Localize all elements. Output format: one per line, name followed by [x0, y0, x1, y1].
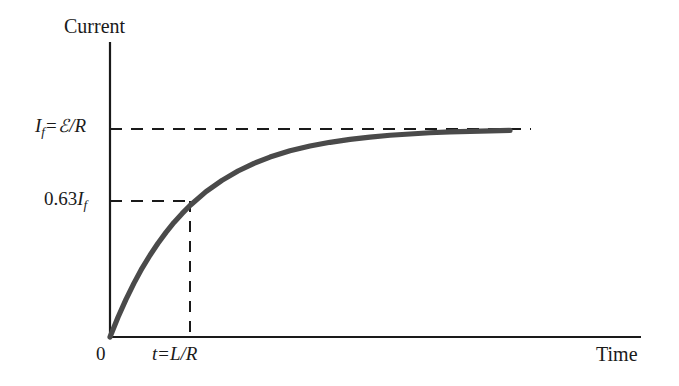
final-current-equals: = [45, 115, 58, 136]
tau-current-coefficient: 0.63 [44, 188, 77, 209]
tau-tick-inductance: L [170, 343, 181, 364]
origin-tick-label: 0 [96, 344, 106, 363]
x-axis-title: Time [596, 344, 638, 364]
x-tick-label-tau: t=L/R [152, 344, 197, 363]
rl-current-growth-figure: Current Time 0 t=L/R If=ℰ/R 0.63If [0, 0, 679, 386]
tau-tick-resistance: R [186, 343, 198, 364]
y-tick-label-tau-current: 0.63If [44, 189, 87, 212]
tau-current-subscript: f [84, 197, 88, 212]
final-current-resistance: R [75, 115, 87, 136]
emf-script-e-symbol: ℰ [58, 115, 70, 136]
tau-tick-equals: = [157, 343, 170, 364]
y-axis-title: Current [64, 16, 125, 36]
current-curve [110, 130, 510, 337]
y-tick-label-final-current: If=ℰ/R [35, 116, 86, 139]
plot-area [0, 0, 679, 386]
